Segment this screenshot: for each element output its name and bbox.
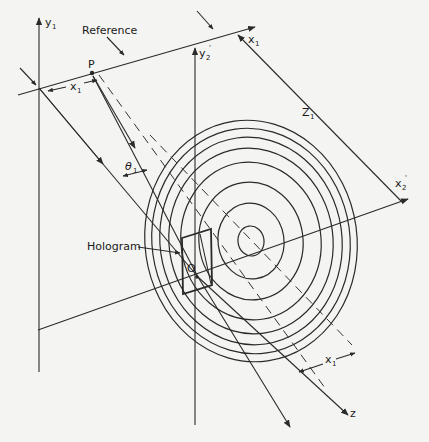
svg-text:2: 2: [402, 184, 406, 192]
origin-point: [195, 275, 199, 279]
svg-text:2: 2: [206, 54, 210, 62]
svg-text:': ': [209, 44, 211, 52]
svg-text:1: 1: [77, 87, 81, 95]
svg-text:1: 1: [310, 113, 314, 121]
svg-text:1: 1: [255, 40, 259, 48]
svg-text:1: 1: [133, 167, 137, 175]
label-p: P: [88, 58, 95, 71]
label-y1: y: [45, 16, 52, 29]
left-pointer: [20, 68, 36, 85]
reference-pointer: [107, 37, 124, 55]
svg-text:': ': [405, 174, 407, 182]
hologram-geometry-diagram: y 1 Reference x 1 P x 1 y 2 ' Z 1 θ 1 x …: [0, 0, 429, 442]
dashed-normal-line: [99, 75, 325, 388]
label-x1-top: x: [248, 33, 255, 46]
z-axis: [198, 277, 348, 415]
label-theta1: θ: [125, 160, 132, 173]
point-p: [90, 71, 94, 75]
label-z: z: [350, 407, 356, 420]
z1-line: [238, 35, 403, 203]
label-hologram: Hologram: [87, 240, 141, 253]
label-x2-prime: x: [395, 177, 402, 190]
svg-text:1: 1: [52, 23, 56, 31]
x1-dimension-left: [48, 87, 66, 91]
label-z1: Z: [302, 106, 310, 119]
svg-text:1: 1: [332, 360, 336, 368]
zone-rings: [129, 106, 373, 375]
label-y2-prime: y: [199, 47, 206, 60]
x1-dimension-bottom: [299, 364, 323, 372]
label-origin: O: [187, 262, 196, 275]
label-x1-bottom: x: [325, 353, 332, 366]
reference-end-pointer: [197, 11, 213, 29]
label-reference: Reference: [82, 24, 138, 37]
reference-line: [18, 27, 255, 95]
label-x1-left: x: [70, 80, 77, 93]
